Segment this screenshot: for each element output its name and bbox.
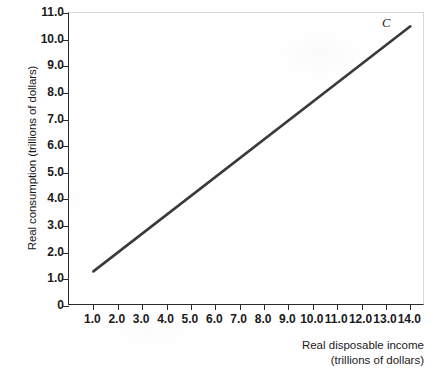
- x-tick-mark: [313, 304, 314, 310]
- x-axis-tick-labels: 1.02.03.04.05.06.07.08.09.010.011.012.01…: [68, 313, 424, 329]
- y-tick-mark: [63, 253, 69, 254]
- y-tick-mark: [63, 120, 69, 121]
- x-tick-mark: [167, 304, 168, 310]
- x-tick-mark: [410, 304, 411, 310]
- y-tick-label: 4.0: [24, 192, 64, 204]
- y-tick-mark: [63, 279, 69, 280]
- y-tick-mark: [63, 93, 69, 94]
- x-tick-mark: [264, 304, 265, 310]
- consumption-function-line: [93, 26, 410, 271]
- x-axis-title: Real disposable income (trillions of dol…: [120, 338, 424, 368]
- x-tick-mark: [215, 304, 216, 310]
- chart-figure: Real consumption (trillions of dollars) …: [0, 0, 441, 377]
- y-tick-mark: [63, 66, 69, 67]
- plot-area: C: [68, 12, 424, 305]
- x-tick-mark: [93, 304, 94, 310]
- y-tick-label: 6.0: [24, 139, 64, 151]
- x-tick-mark: [142, 304, 143, 310]
- y-tick-label: 2.0: [24, 246, 64, 258]
- consumption-line-svg: [69, 13, 425, 306]
- x-axis-title-line2: (trillions of dollars): [120, 353, 424, 368]
- y-tick-label: 3.0: [24, 219, 64, 231]
- y-tick-label: 8.0: [24, 86, 64, 98]
- y-tick-mark: [63, 173, 69, 174]
- y-tick-mark: [63, 306, 69, 307]
- y-tick-label: 10.0: [24, 33, 64, 45]
- x-tick-mark: [386, 304, 387, 310]
- y-tick-label: 5.0: [24, 166, 64, 178]
- y-tick-label: 7.0: [24, 113, 64, 125]
- y-tick-mark: [63, 146, 69, 147]
- x-tick-mark: [240, 304, 241, 310]
- curve-label-c: C: [382, 16, 390, 31]
- y-tick-mark: [63, 40, 69, 41]
- y-tick-label: 9.0: [24, 59, 64, 71]
- x-tick-mark: [118, 304, 119, 310]
- x-tick-label: 14.0: [389, 313, 429, 325]
- y-tick-mark: [63, 13, 69, 14]
- x-tick-mark: [337, 304, 338, 310]
- x-tick-mark: [362, 304, 363, 310]
- y-axis-tick-labels: 01.02.03.04.05.06.07.08.09.010.011.0: [22, 0, 64, 377]
- y-tick-label: 1.0: [24, 272, 64, 284]
- x-tick-mark: [191, 304, 192, 310]
- y-tick-label: 11.0: [24, 6, 64, 18]
- x-axis-title-line1: Real disposable income: [120, 338, 424, 353]
- x-tick-mark: [288, 304, 289, 310]
- y-tick-mark: [63, 199, 69, 200]
- y-tick-mark: [63, 226, 69, 227]
- y-tick-label: 0: [24, 299, 64, 311]
